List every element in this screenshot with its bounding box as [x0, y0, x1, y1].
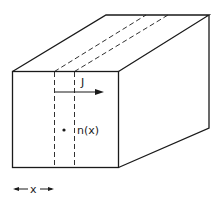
- arrowhead-icon: [95, 89, 104, 95]
- position-label: x: [30, 183, 37, 196]
- front-face: [13, 72, 119, 168]
- top-face: [13, 15, 210, 72]
- slab-boundary-right-top: [75, 15, 169, 72]
- current-arrow: [55, 89, 104, 95]
- density-label: n(x): [77, 124, 99, 137]
- semiconductor-block-diagram: J n(x) x: [0, 0, 220, 203]
- current-label: J: [80, 76, 84, 89]
- density-point: [62, 128, 65, 131]
- right-face: [119, 15, 210, 168]
